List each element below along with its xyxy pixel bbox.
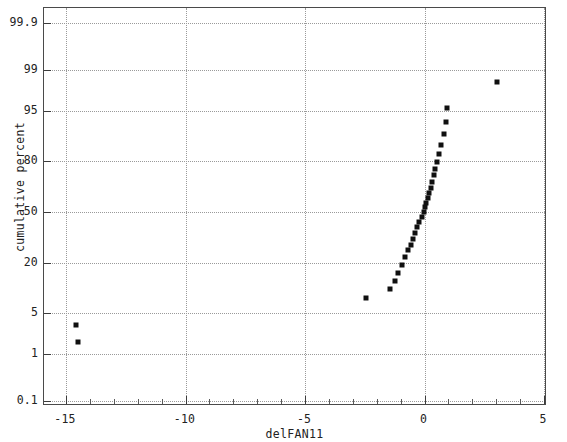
y-axis-tick-label: 99 [0, 62, 38, 76]
y-axis-tick-label: 5 [0, 305, 38, 319]
y-axis-tick-label: 95 [0, 103, 38, 117]
probability-plot-figure: -15-10-505 0.115205080959999.9 delFAN11 … [0, 0, 567, 442]
x-axis-title: delFAN11 [43, 427, 546, 441]
y-axis-tick-label: 20 [0, 255, 38, 269]
y-axis-tick-label: 99.9 [0, 15, 38, 29]
y-axis-title: cumulative percent [13, 117, 27, 257]
y-axis-tick-labels: 0.115205080959999.9 [0, 0, 567, 442]
y-axis-tick-label: 0.1 [0, 393, 38, 407]
y-axis-tick-label: 1 [0, 346, 38, 360]
